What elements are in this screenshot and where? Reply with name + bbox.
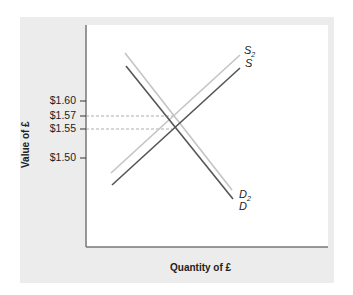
y-axis-label: Value of £: [20, 121, 31, 168]
label-s: S: [245, 57, 252, 69]
supply-curve-s2: [111, 55, 240, 173]
y-tick-150: $1.50: [26, 151, 76, 163]
y-tick-155: $1.55: [26, 122, 76, 134]
demand-curve-d: [126, 66, 233, 199]
y-tick-160: $1.60: [26, 94, 76, 106]
y-tick-157: $1.57: [26, 109, 76, 121]
supply-demand-chart: [0, 0, 353, 295]
demand-curve-d2: [125, 53, 232, 190]
label-d: D: [239, 200, 247, 212]
x-axis-label: Quantity of £: [170, 262, 231, 273]
supply-curve-s: [112, 68, 240, 185]
